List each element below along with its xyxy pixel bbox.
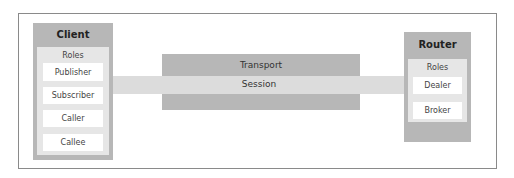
role-broker: Broker (413, 102, 462, 119)
role-subscriber: Subscriber (43, 87, 103, 104)
router-roles-label: Roles (408, 63, 467, 72)
transport-label: Transport (162, 60, 360, 70)
role-callee: Callee (43, 134, 103, 151)
client-box: Client Roles Publisher Subscriber Caller… (33, 23, 113, 160)
client-roles-area: Roles Publisher Subscriber Caller Callee (37, 47, 109, 155)
session-label: Session (113, 79, 405, 89)
client-title: Client (33, 29, 113, 40)
role-caller: Caller (43, 110, 103, 127)
role-dealer: Dealer (413, 77, 462, 94)
router-roles-area: Roles Dealer Broker (408, 59, 467, 122)
router-box: Router Roles Dealer Broker (404, 32, 471, 142)
router-title: Router (404, 39, 471, 50)
session-layer: Session (113, 76, 405, 94)
role-publisher: Publisher (43, 63, 103, 81)
client-roles-label: Roles (37, 51, 109, 60)
